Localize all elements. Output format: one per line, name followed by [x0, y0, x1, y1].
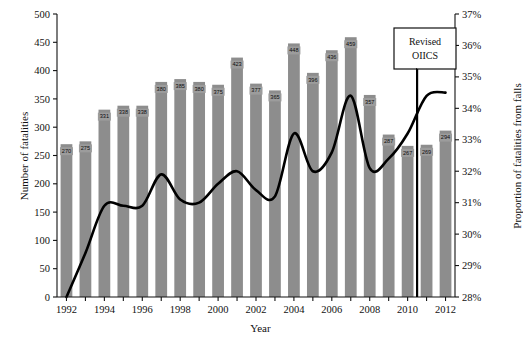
svg-text:436: 436: [327, 54, 336, 60]
svg-text:396: 396: [308, 77, 317, 83]
bar-label-2010: 267: [401, 149, 414, 157]
bar-label-1998: 385: [174, 82, 187, 90]
y-tick-label-left-500: 500: [34, 9, 50, 20]
bar-label-1997: 380: [155, 85, 168, 93]
bar-label-2009: 287: [382, 138, 395, 146]
y-tick-label-right-32%: 32%: [462, 166, 482, 177]
svg-text:365: 365: [270, 94, 279, 100]
bar-label-2005: 396: [306, 76, 319, 84]
y-tick-label-left-350: 350: [34, 94, 50, 105]
y-tick-label-right-35%: 35%: [462, 71, 482, 82]
svg-text:294: 294: [441, 134, 450, 140]
svg-text:357: 357: [365, 99, 374, 105]
y-tick-label-left-400: 400: [34, 65, 50, 76]
bar-label-2011: 269: [420, 148, 433, 156]
bar-1998: [174, 79, 186, 297]
y-axis-title-right: Proportion of fatalities from falls: [511, 71, 523, 241]
x-tick-label-2000: 2000: [208, 304, 229, 315]
bar-label-2012: 294: [439, 134, 452, 142]
bar-1999: [193, 82, 205, 297]
x-tick-label-1996: 1996: [132, 304, 153, 315]
bar-label-1995: 338: [117, 109, 130, 117]
y-tick-label-right-33%: 33%: [462, 134, 482, 145]
bar-2012: [440, 131, 452, 297]
svg-text:267: 267: [403, 150, 412, 156]
svg-text:380: 380: [157, 86, 166, 92]
x-tick-label-2006: 2006: [321, 304, 342, 315]
bar-2006: [326, 50, 338, 297]
revised-oiics-callout-line2: OIICS: [412, 50, 438, 61]
bar-2004: [288, 43, 300, 297]
svg-text:338: 338: [119, 109, 128, 115]
bar-label-1992: 270: [60, 147, 73, 155]
bar-1993: [80, 141, 92, 297]
y-tick-label-left-250: 250: [34, 150, 50, 161]
y-tick-label-right-31%: 31%: [462, 197, 482, 208]
svg-text:275: 275: [81, 145, 90, 151]
y-tick-label-right-29%: 29%: [462, 260, 482, 271]
bar-label-1994: 331: [98, 113, 111, 121]
bar-label-2002: 377: [250, 87, 263, 95]
x-tick-label-2008: 2008: [359, 304, 380, 315]
x-axis-title: Year: [0, 322, 521, 334]
y-tick-label-right-28%: 28%: [462, 292, 482, 303]
x-tick-label-2002: 2002: [246, 304, 267, 315]
x-tick-label-2010: 2010: [397, 304, 418, 315]
bar-label-2003: 365: [268, 93, 281, 101]
bar-2007: [345, 37, 357, 297]
svg-text:338: 338: [138, 109, 147, 115]
bar-1995: [117, 106, 129, 297]
bar-1992: [61, 144, 73, 297]
bar-2001: [231, 58, 243, 297]
bar-2008: [364, 95, 376, 297]
bar-2005: [307, 73, 319, 297]
svg-text:380: 380: [194, 86, 203, 92]
x-tick-label-2004: 2004: [283, 304, 305, 315]
svg-text:269: 269: [422, 149, 431, 155]
y-tick-label-left-300: 300: [34, 122, 50, 133]
bar-label-2006: 436: [325, 53, 338, 61]
y-tick-label-right-36%: 36%: [462, 40, 482, 51]
bar-1997: [155, 82, 167, 297]
y-tick-label-left-200: 200: [34, 178, 50, 189]
y-tick-label-left-450: 450: [34, 37, 50, 48]
svg-text:377: 377: [251, 87, 260, 93]
revised-oiics-callout-box: [394, 28, 456, 69]
bar-label-2000: 375: [212, 88, 225, 96]
svg-text:423: 423: [232, 61, 241, 67]
bar-2011: [421, 145, 433, 297]
bar-label-1996: 338: [136, 109, 149, 117]
svg-text:375: 375: [213, 89, 222, 95]
svg-text:270: 270: [62, 148, 71, 154]
y-axis-title-left: Number of fatalities: [18, 86, 30, 226]
svg-text:448: 448: [289, 47, 298, 53]
bar-label-1999: 380: [193, 85, 206, 93]
x-tick-label-1994: 1994: [94, 304, 116, 315]
bar-label-2001: 423: [231, 61, 244, 69]
bar-label-2004: 448: [287, 46, 300, 54]
bar-label-2007: 459: [344, 40, 357, 48]
y-tick-label-left-100: 100: [34, 235, 50, 246]
y-tick-label-right-37%: 37%: [462, 9, 482, 20]
y-tick-label-left-50: 50: [40, 263, 51, 274]
bar-label-1993: 275: [79, 144, 92, 152]
x-tick-label-2012: 2012: [435, 304, 456, 315]
revised-oiics-callout-line1: Revised: [409, 36, 441, 47]
svg-text:331: 331: [100, 113, 109, 119]
bar-2010: [402, 146, 414, 297]
y-tick-label-left-150: 150: [34, 207, 50, 218]
y-tick-label-left-0: 0: [45, 292, 50, 303]
svg-text:287: 287: [384, 138, 393, 144]
svg-text:385: 385: [176, 83, 185, 89]
x-tick-label-1998: 1998: [170, 304, 191, 315]
bar-label-2008: 357: [363, 98, 376, 106]
svg-text:459: 459: [346, 41, 355, 47]
y-tick-label-right-34%: 34%: [462, 103, 482, 114]
bar-2000: [212, 85, 224, 297]
y-tick-label-right-30%: 30%: [462, 229, 482, 240]
x-tick-label-1992: 1992: [56, 304, 77, 315]
